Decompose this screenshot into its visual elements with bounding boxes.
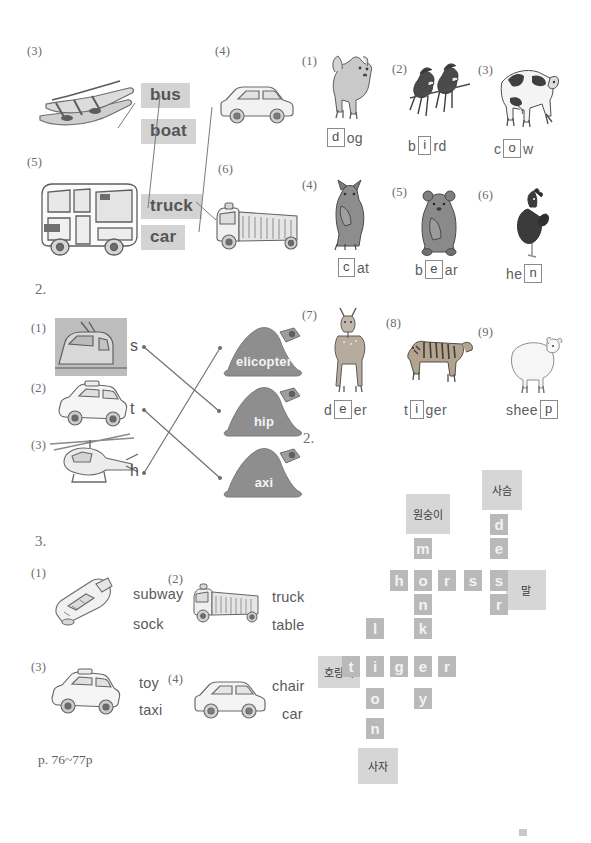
choose-option-taxi[interactable]: taxi [139,702,162,718]
connector-t-axi [144,410,220,478]
page-corner-mark [519,829,527,836]
crossword-grid: 사슴 원숭이 말 호랑이 사자 d e s r m o n k e y h r … [340,470,580,790]
section-number-2-right: 2. [303,430,314,447]
choose-option-truck[interactable]: truck [272,589,304,605]
section-number-3: 3. [35,533,46,550]
clue-box-deer[interactable]: 사슴 [482,470,522,510]
crossword-cell-e-monkey[interactable]: e [414,656,432,677]
car-illustration-2 [190,676,268,722]
subway-illustration [50,572,118,628]
crossword-cell-r-deer[interactable]: r [490,594,508,615]
crossword-cell-h[interactable]: h [390,570,408,591]
crossword-cell-s[interactable]: s [464,570,482,591]
crossword-cell-y[interactable]: y [414,688,432,709]
choose-number-1: (1) [31,566,46,581]
clue-box-lion[interactable]: 사자 [358,748,398,784]
taxi-illustration-2 [48,668,124,716]
choose-option-chair[interactable]: chair [272,678,304,694]
crossword-cell-o-lion[interactable]: o [366,688,384,709]
choose-option-subway[interactable]: subway [133,586,183,602]
choose-option-toy[interactable]: toy [139,675,159,691]
clue-box-horse[interactable]: 말 [506,570,546,610]
choose-number-4: (4) [168,672,183,687]
choose-option-sock[interactable]: sock [133,616,164,632]
crossword-cell-n-lion[interactable]: n [366,718,384,739]
crossword-cell-e2[interactable]: s [490,570,508,591]
crossword-cell-r-tiger[interactable]: r [438,656,456,677]
choose-number-3: (3) [31,660,46,675]
crossword-cell-d[interactable]: d [490,514,508,535]
crossword-cell-k[interactable]: k [414,618,432,639]
crossword-cell-e1[interactable]: e [490,538,508,559]
page-footer: p. 76~77p [38,752,93,768]
choose-number-2: (2) [168,572,183,587]
crossword-cell-l[interactable]: l [366,618,384,639]
choose-option-table[interactable]: table [272,617,304,633]
crossword-cell-r-horse[interactable]: r [438,570,456,591]
connector-h-elicopter [144,348,220,473]
crossword-cell-i-lion[interactable]: i [366,656,384,677]
crossword-cell-m[interactable]: m [414,538,432,559]
fire-truck-illustration [190,580,262,624]
connector-s-hip [144,347,219,411]
crossword-cell-o-monkey[interactable]: o [414,570,432,591]
crossword-cell-g[interactable]: g [390,656,408,677]
clue-box-monkey[interactable]: 원숭이 [406,494,450,534]
crossword-cell-n-monkey[interactable]: n [414,594,432,615]
choose-option-car[interactable]: car [282,706,303,722]
worksheet-page: (3) (4) (5) (6) [0,0,591,843]
crossword-cell-t[interactable]: t [342,656,360,677]
